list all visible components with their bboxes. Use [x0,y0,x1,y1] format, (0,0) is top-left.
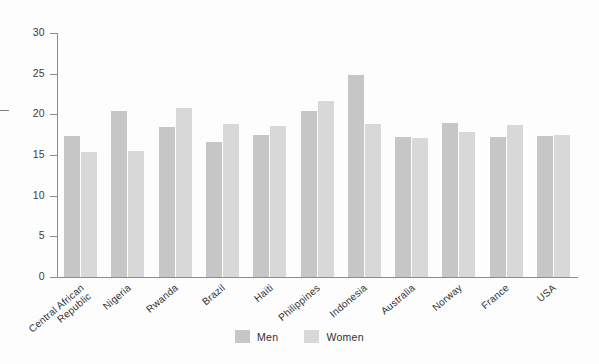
y-axis-tick-label: 0 [39,270,45,282]
bar-group [64,33,97,277]
bar-chart: 051015202530 Central African RepublicNig… [0,0,599,364]
bar-women [270,126,286,277]
legend-label: Men [257,331,278,343]
bar-group [537,33,570,277]
bar-group [253,33,286,277]
bar-group [206,33,239,277]
legend-label: Women [326,331,364,343]
bar-men [301,111,317,277]
y-axis-tick-mark [50,277,57,278]
chart-legend: MenWomen [0,330,599,343]
legend-swatch-icon [235,330,250,343]
legend-item: Men [235,330,278,343]
y-axis-tick-mark [50,74,57,75]
bar-men [206,142,222,277]
bar-women [318,101,334,277]
bar-women [128,151,144,277]
y-axis-tick-mark [50,114,57,115]
bar-group [348,33,381,277]
bar-women [507,125,523,277]
y-axis-tick-label: 20 [33,107,45,119]
x-axis-category-label: Rwanda [144,282,180,315]
bar-men [442,123,458,277]
x-axis-category-label: Australia [378,282,416,317]
bar-women [365,124,381,277]
y-axis-tick-label: 5 [39,229,45,241]
y-axis-tick-mark [50,236,57,237]
y-axis-tick-label: 10 [33,189,45,201]
legend-swatch-icon [304,330,319,343]
bar-men [537,136,553,277]
x-axis-category-label: Indonesia [328,282,370,319]
bar-women [412,138,428,277]
x-axis-category-label: Nigeria [101,282,133,312]
bar-group [301,33,334,277]
x-axis-category-label: Brazil [200,282,227,307]
bar-men [159,127,175,277]
x-axis-category-label: USA [535,282,558,304]
bar-women [176,108,192,277]
bar-men [490,137,506,277]
bar-women [554,135,570,277]
x-axis-category-label: France [479,282,511,311]
x-axis-category-label: Haiti [252,282,275,304]
bar-men [253,135,269,277]
bar-group [395,33,428,277]
bar-group [111,33,144,277]
bar-women [223,124,239,277]
bar-men [111,111,127,277]
y-axis-tick-label: 15 [33,148,45,160]
bar-group [159,33,192,277]
y-axis-tick-label: 30 [33,26,45,38]
bar-men [348,75,364,277]
bar-men [64,136,80,277]
bar-group [490,33,523,277]
bar-group [442,33,475,277]
x-axis-category-label: Norway [430,282,464,313]
bar-women [459,132,475,277]
y-axis-tick-mark [50,196,57,197]
bar-women [81,152,97,277]
bar-men [395,137,411,277]
y-axis-tick-mark [50,155,57,156]
x-axis-line [57,277,578,278]
cropped-axis-tick-icon [0,110,9,111]
legend-item: Women [304,330,364,343]
plot-area [57,33,577,277]
x-axis-category-label: Philippines [276,282,322,323]
y-axis-tick-mark [50,33,57,34]
y-axis-tick-label: 25 [33,67,45,79]
